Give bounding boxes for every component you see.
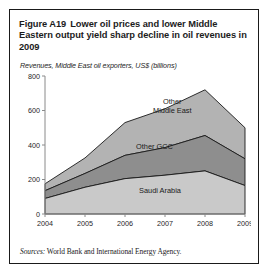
x-tick-label: 2004 [37, 219, 53, 228]
y-tick-label: 600 [28, 106, 40, 115]
chart-plot-area: 0200400600800200420052006200720082009 Ot… [19, 72, 251, 232]
y-tick-label: 200 [28, 175, 40, 184]
source-note: Sources: World Bank and International En… [20, 247, 181, 256]
figure-card: Figure A19Lower oil prices and lower Mid… [9, 9, 259, 264]
x-tick-label: 2005 [77, 219, 93, 228]
x-tick-label: 2007 [157, 219, 173, 228]
y-tick-label: 0 [36, 210, 40, 219]
y-tick-label: 800 [28, 72, 40, 81]
x-tick-label: 2009 [237, 219, 251, 228]
figure-number: Figure A19 [19, 19, 66, 29]
area-layers [45, 90, 245, 214]
source-label: Sources: [20, 247, 45, 256]
x-tick-label: 2008 [197, 219, 213, 228]
y-tick-label: 400 [28, 141, 40, 150]
source-text: World Bank and International Energy Agen… [47, 247, 182, 256]
page-title: Figure A19Lower oil prices and lower Mid… [19, 19, 249, 53]
chart-subtitle: Revenues, Middle East oil exporters, US$… [20, 61, 249, 70]
stacked-area-chart: 0200400600800200420052006200720082009 [19, 72, 251, 232]
x-tick-label: 2006 [117, 219, 133, 228]
